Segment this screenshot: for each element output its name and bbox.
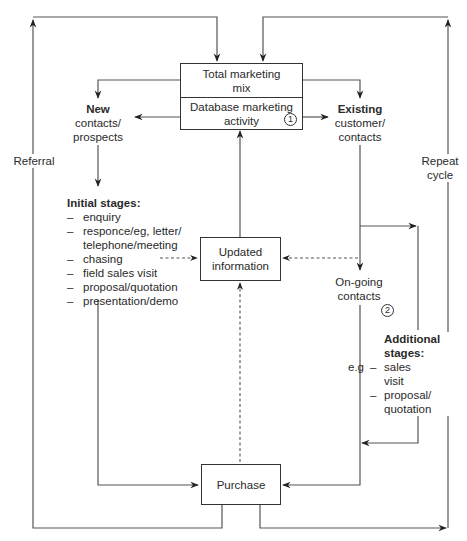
new-contacts-line1: contacts/ <box>58 116 138 130</box>
additional-item-proposal: proposal/ <box>384 389 431 401</box>
total-marketing-mix-label-1: Total marketing <box>203 67 281 81</box>
stage-item: –enquiry <box>67 210 207 224</box>
additional-stages-title-1: Additional <box>366 332 466 346</box>
stage-item: –chasing <box>67 252 207 266</box>
stage-item: –responce/eg, letter/telephone/meeting <box>67 224 207 252</box>
total-marketing-mix-label-2: mix <box>233 81 251 95</box>
marker-2-icon: 2 <box>381 304 394 317</box>
repeat-cycle-label: Repeat cycle <box>412 154 467 182</box>
updated-information-box: Updated information <box>200 237 281 281</box>
ongoing-line1: On-going <box>326 275 392 289</box>
database-marketing-section: Database marketing activity <box>181 98 302 129</box>
updated-information-label-2: information <box>201 259 280 273</box>
database-marketing-label-1: Database marketing <box>190 100 293 114</box>
existing-contacts-line1: customer/ <box>320 116 400 130</box>
ongoing-line2: contacts <box>326 289 392 303</box>
initial-stages-title: Initial stages: <box>67 196 207 210</box>
updated-information-label-1: Updated <box>201 245 280 259</box>
eg-prefix: e.g <box>348 360 364 374</box>
purchase-label: Purchase <box>217 478 266 492</box>
initial-stages-node: Initial stages: –enquiry –responce/eg, l… <box>67 196 207 308</box>
database-marketing-label-2: activity <box>224 114 259 128</box>
total-marketing-mix-section: Total marketing mix <box>181 64 302 98</box>
marketing-mix-box: Total marketing mix Database marketing a… <box>180 63 303 130</box>
stage-item: –proposal/quotation <box>67 280 207 294</box>
existing-contacts-line2: contacts <box>320 130 400 144</box>
new-contacts-node: New contacts/ prospects <box>58 102 138 144</box>
purchase-box: Purchase <box>201 464 281 505</box>
repeat-cycle-line2: cycle <box>412 168 467 182</box>
stage-item: –field sales visit <box>67 266 207 280</box>
initial-stages-list: –enquiry –responce/eg, letter/telephone/… <box>67 210 207 308</box>
existing-contacts-node: Existing customer/ contacts <box>320 102 400 144</box>
repeat-cycle-line1: Repeat <box>412 154 467 168</box>
stage-item: –presentation/demo <box>67 294 207 308</box>
additional-item-sales: sales <box>384 361 411 373</box>
existing-contacts-title: Existing <box>320 102 400 116</box>
new-contacts-title: New <box>58 102 138 116</box>
additional-stages-title-2: stages: <box>366 346 466 360</box>
marker-1-icon: 1 <box>284 113 297 126</box>
additional-item-visit: visit <box>366 374 466 388</box>
referral-label: Referral <box>4 154 64 168</box>
additional-item-quotation: quotation <box>366 402 466 416</box>
ongoing-contacts-node: On-going contacts <box>326 275 392 303</box>
additional-stages-node: Additional stages: e.g – sales visit – p… <box>366 332 466 416</box>
new-contacts-line2: prospects <box>58 130 138 144</box>
